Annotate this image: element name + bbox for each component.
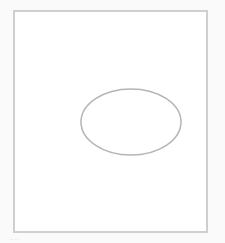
ellipse-shape (0, 0, 225, 243)
caption-text: ···· (10, 236, 18, 242)
ellipse-outline (81, 89, 181, 155)
